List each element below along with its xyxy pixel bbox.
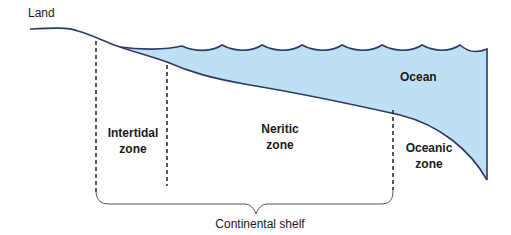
neritic-zone-label-line2: zone — [250, 137, 310, 153]
intertidal-zone-label-line2: zone — [102, 141, 164, 157]
ocean-zones-diagram — [0, 0, 511, 235]
oceanic-zone-label: Oceanic zone — [400, 140, 458, 172]
land-label: Land — [28, 5, 55, 21]
neritic-zone-label-line1: Neritic — [250, 121, 310, 137]
oceanic-zone-label-line1: Oceanic — [400, 140, 458, 156]
ocean-label: Ocean — [400, 69, 437, 85]
continental-shelf-label: Continental shelf — [205, 216, 315, 232]
neritic-zone-label: Neritic zone — [250, 121, 310, 153]
intertidal-zone-label-line1: Intertidal — [102, 125, 164, 141]
oceanic-zone-label-line2: zone — [400, 156, 458, 172]
continental-shelf-brace — [96, 190, 393, 214]
intertidal-zone-label: Intertidal zone — [102, 125, 164, 157]
